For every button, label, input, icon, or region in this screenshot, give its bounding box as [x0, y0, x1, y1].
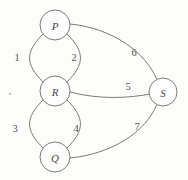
node-Q-label: Q	[51, 152, 59, 164]
edge-label-7: 7	[134, 121, 139, 132]
node-S[interactable]: S	[149, 78, 177, 106]
edge-label-2: 2	[71, 52, 76, 63]
edge-label-group: 1 2 3 4 5 6 7	[12, 47, 139, 134]
edge-7-Q-S[interactable]	[70, 104, 157, 158]
edge-label-3: 3	[12, 123, 17, 134]
node-R-label: R	[51, 86, 59, 98]
node-Q[interactable]: Q	[40, 142, 70, 172]
edge-3-R-Q-left[interactable]	[30, 100, 44, 148]
node-P-label: P	[51, 20, 59, 32]
edge-5-R-S[interactable]	[70, 92, 150, 98]
graph-svg: P R Q S 1 2 3 4 5 6 7	[0, 0, 188, 180]
edge-label-4: 4	[73, 123, 79, 134]
edge-label-5: 5	[125, 81, 130, 92]
edge-6-P-S[interactable]	[70, 24, 157, 80]
edge-1-P-R-left[interactable]	[30, 34, 44, 82]
edge-label-1: 1	[14, 52, 19, 63]
edge-label-6: 6	[131, 47, 136, 58]
graph-diagram-canvas: P R Q S 1 2 3 4 5 6 7	[0, 0, 188, 180]
scan-speck	[9, 93, 11, 95]
node-P[interactable]: P	[40, 10, 70, 40]
node-S-label: S	[160, 87, 166, 99]
node-R[interactable]: R	[40, 76, 70, 106]
